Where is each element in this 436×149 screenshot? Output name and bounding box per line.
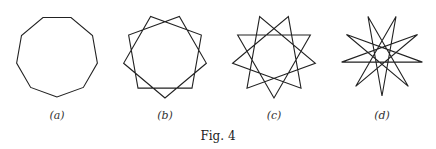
panel-c-label: (c) — [267, 109, 282, 122]
panel-b-label: (b) — [157, 109, 173, 122]
star-9-4-shape — [342, 16, 423, 96]
panel-a: (a) — [17, 17, 98, 122]
panel-b: (b) — [124, 17, 207, 122]
panel-a-label: (a) — [49, 109, 64, 122]
nonagon-9-1-shape — [17, 17, 98, 97]
figure-4: (a) (b) (c) (d) Fig. 4 — [0, 0, 436, 149]
panel-d: (d) — [342, 16, 423, 122]
figure-caption: Fig. 4 — [200, 129, 235, 143]
panel-c: (c) — [233, 17, 316, 122]
star-9-3-shape — [233, 17, 316, 98]
panel-d-label: (d) — [374, 109, 390, 122]
star-9-2-shape — [124, 17, 207, 98]
